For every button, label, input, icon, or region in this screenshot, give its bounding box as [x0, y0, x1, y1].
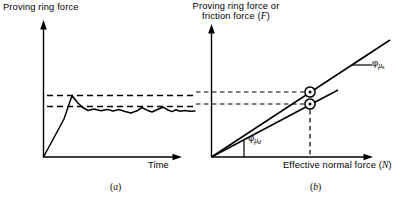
panel-a-graph: [40, 20, 196, 160]
panel-a-caption: (a): [110, 182, 121, 192]
panel-a-y-axis-label: Proving ring force: [3, 2, 79, 12]
panel-b-y-axis-label-line2: friction force (: [202, 11, 261, 21]
panel-a-y-axis: [40, 20, 47, 157]
static-friction-angle-label: φμs: [372, 57, 384, 70]
panel-b-static-angle-wedge: [352, 54, 372, 66]
panel-b-graph: [196, 24, 390, 160]
dynamic-friction-angle-label: φμd: [248, 132, 261, 145]
friction-figure: Proving ring force Time Proving ring for…: [0, 0, 411, 203]
panel-b-dynamic-envelope: [212, 90, 339, 157]
dynamic-subscript: d: [258, 139, 261, 145]
panel-b-caption: (b): [310, 182, 321, 192]
panel-b-x-axis-label-text: Effective normal force (: [283, 160, 382, 170]
panel-b-y-axis: [208, 24, 215, 157]
panel-b-dynamic-point: [305, 99, 315, 109]
panel-a-x-axis-label: Time: [148, 160, 169, 170]
panel-b-x-axis-label-close: ): [389, 160, 392, 170]
panel-b-x-axis-label: Effective normal force (N): [283, 160, 392, 170]
panel-a-force-trace: [44, 96, 196, 158]
panel-b-y-axis-label: Proving ring force or friction force (F): [164, 1, 308, 22]
panel-b-static-point: [305, 87, 315, 97]
panel-b-caption-letter: b: [313, 182, 318, 192]
static-subscript: s: [382, 64, 385, 70]
figure-canvas: [0, 0, 411, 203]
panel-b-y-axis-label-close: ): [267, 11, 270, 21]
panel-a-caption-letter: a: [113, 182, 118, 192]
